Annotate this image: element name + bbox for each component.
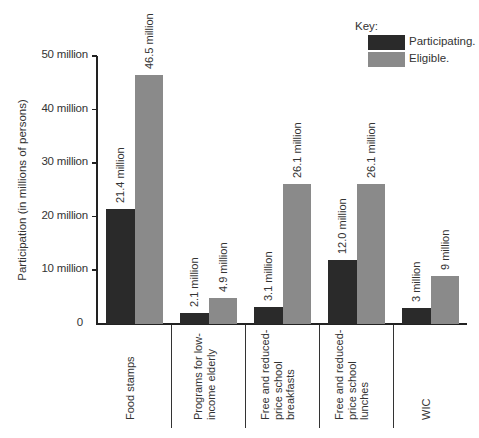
category-divider	[393, 325, 394, 428]
y-tick	[92, 269, 97, 271]
category-label: WIC	[420, 399, 433, 420]
y-tick	[92, 109, 97, 111]
bar-value-label: 3 million	[410, 262, 422, 302]
y-tick	[92, 162, 97, 164]
y-tick	[92, 216, 97, 218]
bar-participating	[254, 307, 283, 324]
bar-eligible	[357, 184, 386, 324]
legend-swatch-eligible	[368, 52, 405, 67]
category-divider	[245, 325, 246, 428]
legend-label-participating: Participating.	[409, 35, 475, 47]
y-tick-label: 20 million	[8, 209, 88, 221]
bar-value-label: 26.1 million	[291, 122, 303, 178]
bar-value-label: 12.0 million	[336, 198, 348, 254]
bar-participating	[180, 313, 209, 324]
legend-title: Key:	[355, 20, 378, 32]
category-divider	[171, 325, 172, 428]
bar-participating	[106, 209, 135, 324]
bar-value-label: 26.1 million	[365, 122, 377, 178]
category-label: Food stamps	[124, 356, 137, 420]
bar-value-label: 9 million	[439, 229, 451, 269]
bar-eligible	[431, 276, 460, 324]
bar-eligible	[209, 298, 238, 324]
bar-value-label: 46.5 million	[143, 13, 155, 69]
y-tick-label: 0	[3, 316, 83, 328]
bar-value-label: 4.9 million	[217, 242, 229, 292]
category-label: Free and reduced- price school breakfast…	[259, 330, 297, 421]
y-tick-label: 10 million	[8, 262, 88, 274]
bar-participating	[402, 308, 431, 324]
legend-label-eligible: Eligible.	[409, 52, 449, 64]
bar-eligible	[135, 75, 164, 324]
bar-value-label: 3.1 million	[262, 252, 274, 302]
y-tick	[92, 55, 97, 57]
y-tick-label: 50 million	[8, 48, 88, 60]
y-axis-label: Participation (in millions of persons)	[16, 99, 28, 281]
y-tick-label: 30 million	[8, 155, 88, 167]
legend-swatch-participating	[368, 35, 405, 50]
category-label: Free and reduced- price school lunches	[333, 330, 371, 421]
bar-eligible	[283, 184, 312, 324]
y-tick-label: 40 million	[8, 102, 88, 114]
bar-value-label: 2.1 million	[188, 257, 200, 307]
category-divider	[319, 325, 320, 428]
bar-value-label: 21.4 million	[114, 148, 126, 204]
category-label: Programs for low- income elderly	[192, 333, 217, 420]
y-axis	[96, 56, 98, 325]
bar-participating	[328, 260, 357, 324]
